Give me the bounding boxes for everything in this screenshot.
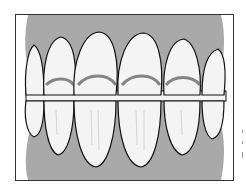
illustration-frame [15,14,234,181]
teeth-illustration [16,15,233,180]
edge-marks [242,130,245,166]
